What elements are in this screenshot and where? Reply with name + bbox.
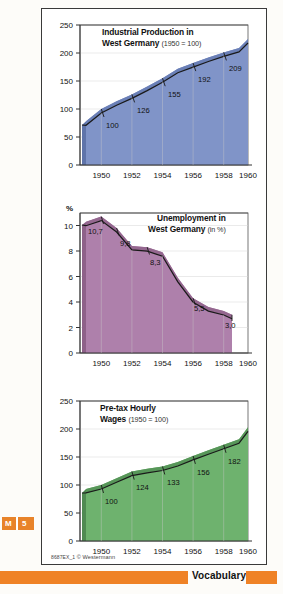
data-label: 5,5 — [194, 304, 205, 313]
data-label: 124 — [136, 483, 149, 492]
chart-title-line1: Unemployment in — [157, 213, 226, 223]
xtick-label: 1952 — [123, 171, 141, 180]
data-label: 9,8 — [120, 239, 131, 248]
chart-industrial-production: 0 50 100 150 200 250 1950 1952 1954 1956… — [42, 13, 268, 193]
xtick-label: 1960 — [239, 547, 257, 556]
ytick-label: 250 — [60, 397, 74, 406]
xtick-label: 1960 — [239, 171, 257, 180]
ytick-label: 4 — [69, 298, 74, 307]
chart-title-unemployment: Unemployment in West Germany (in %) — [148, 213, 226, 235]
chart-title-sub: (1950 = 100) — [128, 415, 168, 424]
data-label: 182 — [228, 457, 241, 466]
data-label: 156 — [197, 468, 210, 477]
chart-title-industrial-production: Industrial Production in West Germany (1… — [102, 27, 201, 49]
ytick-label: 0 — [69, 349, 74, 358]
bottom-bar-right-segment — [246, 571, 277, 584]
chart-title-pretax-hourly-wages: Pre-tax Hourly Wages (1950 = 100) — [100, 403, 168, 425]
xtick-label: 1954 — [154, 171, 172, 180]
data-label: 100 — [106, 121, 119, 130]
ytick-label: 150 — [60, 453, 74, 462]
module-number: 5 — [18, 519, 26, 528]
content-panel: 0 50 100 150 200 250 1950 1952 1954 1956… — [41, 8, 267, 565]
ytick-label: 200 — [60, 425, 74, 434]
chart-title-line1: Industrial Production in — [102, 27, 194, 37]
source-credit: 8687EX_1 © Westermann — [51, 554, 115, 560]
ytick-label: 200 — [60, 49, 74, 58]
chart-title-line2: Wages — [100, 414, 126, 424]
ytick-label: 0 — [69, 161, 74, 170]
data-label: 100 — [105, 497, 118, 506]
xtick-label: 1956 — [184, 359, 202, 368]
page-background: 0 50 100 150 200 250 1950 1952 1954 1956… — [0, 0, 283, 594]
credit-copyright: © Westermann — [77, 554, 115, 560]
credit-code: 8687EX_1 — [51, 554, 75, 560]
data-label: 8,3 — [150, 258, 161, 267]
data-label: 155 — [168, 90, 181, 99]
chart-unemployment: 0 2 4 6 8 10 % 1950 1952 1954 1956 1958 … — [42, 201, 268, 381]
ytick-label: 6 — [69, 273, 74, 282]
xtick-label: 1950 — [92, 171, 110, 180]
xtick-label: 1954 — [154, 359, 172, 368]
chart-title-sub: (in %) — [208, 225, 226, 234]
ytick-label: 8 — [69, 247, 74, 256]
xtick-label: 1958 — [215, 547, 233, 556]
chart-title-sub: (1950 = 100) — [162, 39, 202, 48]
data-label: 126 — [137, 106, 150, 115]
ytick-label: 2 — [69, 324, 74, 333]
yaxis-unit-label: % — [66, 204, 73, 213]
bottom-bar-left-segment — [0, 571, 188, 584]
xtick-label: 1960 — [239, 359, 257, 368]
vocabulary-label: Vocabulary — [192, 570, 246, 581]
data-label: 133 — [167, 478, 180, 487]
module-badge: M 5 — [2, 517, 34, 530]
data-label: 10,7 — [88, 227, 103, 236]
xtick-label: 1952 — [123, 359, 141, 368]
chart-title-line2: West Germany — [148, 224, 205, 234]
xtick-label: 1958 — [215, 171, 233, 180]
ytick-label: 100 — [60, 481, 74, 490]
chart-title-line1: Pre-tax Hourly — [100, 403, 156, 413]
data-label: 192 — [198, 75, 211, 84]
module-letter: M — [2, 519, 16, 528]
data-label: 3,0 — [225, 321, 236, 330]
xtick-label: 1950 — [92, 359, 110, 368]
xtick-label: 1952 — [123, 547, 141, 556]
ytick-label: 50 — [64, 133, 73, 142]
ytick-label: 250 — [60, 21, 74, 30]
ytick-label: 10 — [64, 222, 73, 231]
bottom-bar: Vocabulary — [0, 571, 283, 584]
xtick-label: 1958 — [215, 359, 233, 368]
xtick-label: 1956 — [184, 171, 202, 180]
ytick-label: 50 — [64, 509, 73, 518]
ytick-label: 150 — [60, 77, 74, 86]
xtick-label: 1956 — [184, 547, 202, 556]
xtick-label: 1954 — [154, 547, 172, 556]
chart-title-line2: West Germany — [102, 38, 159, 48]
data-label: 209 — [229, 64, 242, 73]
ytick-label: 100 — [60, 105, 74, 114]
ytick-label: 0 — [69, 537, 74, 546]
chart-pretax-hourly-wages: 0 50 100 150 200 250 1950 1952 1954 1956… — [42, 389, 268, 564]
